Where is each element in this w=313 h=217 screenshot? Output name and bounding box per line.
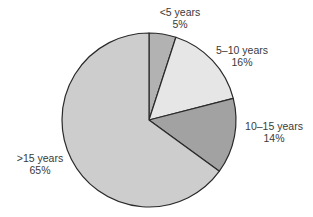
label-under-5: <5 years 5% (152, 6, 208, 30)
label-5-10: 5–10 years 16% (210, 44, 274, 68)
label-5-10-name: 5–10 years (210, 44, 274, 56)
label-10-15-name: 10–15 years (239, 120, 309, 132)
label-over-15-pct: 65% (10, 164, 70, 176)
label-10-15-pct: 14% (239, 132, 309, 144)
label-over-15-name: >15 years (10, 152, 70, 164)
pie-chart (0, 0, 313, 217)
label-10-15: 10–15 years 14% (239, 120, 309, 144)
label-under-5-pct: 5% (152, 18, 208, 30)
label-5-10-pct: 16% (210, 56, 274, 68)
label-under-5-name: <5 years (152, 6, 208, 18)
label-over-15: >15 years 65% (10, 152, 70, 176)
